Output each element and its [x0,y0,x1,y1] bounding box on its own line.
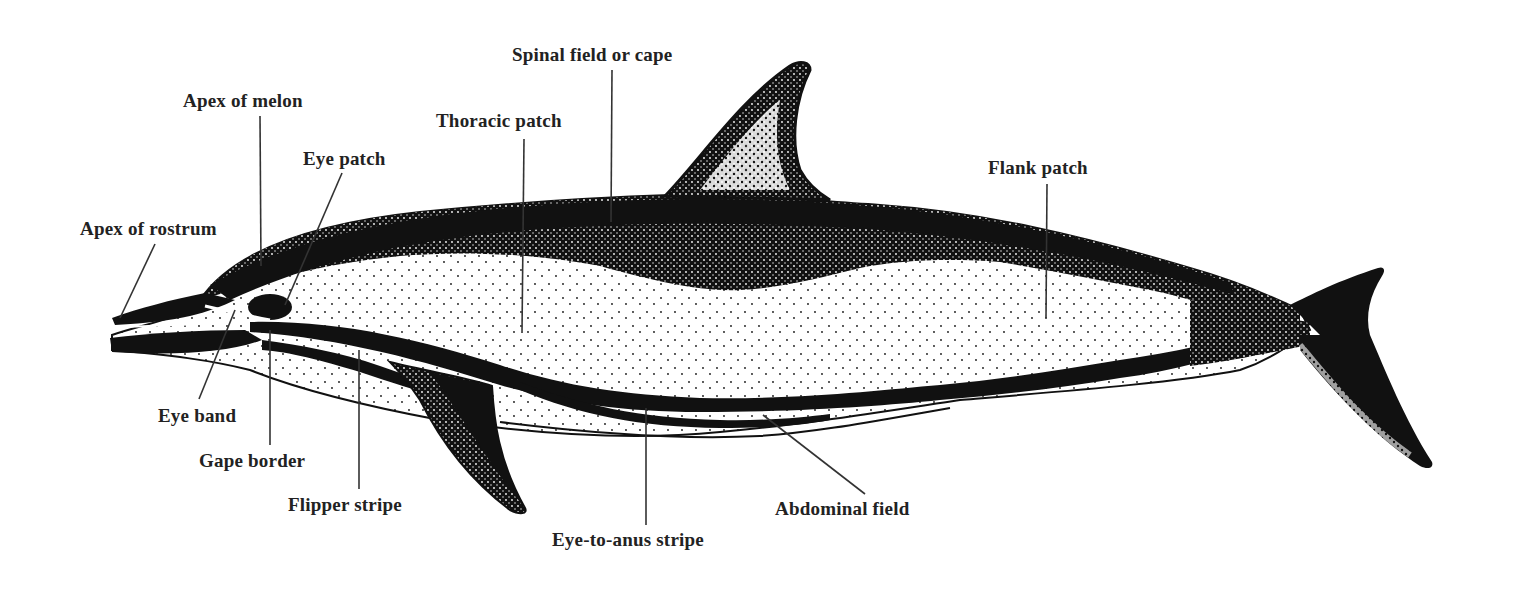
label-eye-patch: Eye patch [303,149,386,168]
label-flipper-stripe: Flipper stripe [288,495,402,514]
label-gape-border: Gape border [199,451,305,470]
leader-line-spinal-field-or-cape [611,70,612,222]
leader-line-flank-patch [1046,184,1047,318]
dolphin-illustration [0,0,1513,589]
label-spinal-field-or-cape: Spinal field or cape [512,45,672,64]
tail-fluke-lower [1300,335,1432,468]
label-eye-to-anus-stripe: Eye-to-anus stripe [552,530,704,549]
leader-line-abdominal-field [763,415,865,494]
dolphin-diagram: Apex of rostrum Apex of melon Eye patch … [0,0,1513,589]
label-apex-of-rostrum: Apex of rostrum [80,219,217,238]
label-apex-of-melon: Apex of melon [183,91,303,110]
leader-line-apex-of-melon [260,116,261,266]
label-eye-band: Eye band [158,406,236,425]
label-thoracic-patch: Thoracic patch [436,111,562,130]
label-abdominal-field: Abdominal field [775,499,909,518]
label-flank-patch: Flank patch [988,158,1088,177]
